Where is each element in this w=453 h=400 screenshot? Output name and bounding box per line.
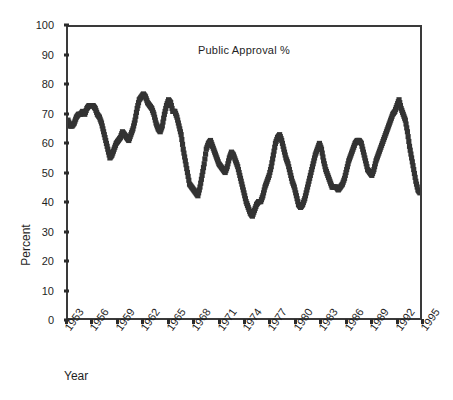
- x-tick-label: 1971: [215, 306, 239, 333]
- x-tick-label: 1974: [240, 306, 264, 333]
- x-tick-label: 1992: [393, 306, 417, 333]
- x-tick-label: 1983: [316, 306, 340, 333]
- x-tick-label: 1962: [138, 306, 162, 333]
- approval-chart-figure: Public Approval % 0102030405060708090100…: [0, 0, 453, 400]
- x-tick-label: 1977: [265, 306, 289, 333]
- x-tick-label: 1995: [418, 306, 442, 333]
- x-tick-label: 1980: [291, 306, 315, 333]
- x-tick-label: 1986: [342, 306, 366, 333]
- x-tick-label: 1956: [87, 306, 111, 333]
- x-axis-tick-group: 1953195619591962196519681971197419771980…: [0, 0, 453, 400]
- x-tick-label: 1989: [367, 306, 391, 333]
- x-tick-label: 1959: [113, 306, 137, 333]
- x-tick-label: 1965: [164, 306, 188, 333]
- x-tick-label: 1953: [62, 306, 86, 333]
- x-tick-label: 1968: [189, 306, 213, 333]
- x-axis-title: Year: [64, 369, 88, 383]
